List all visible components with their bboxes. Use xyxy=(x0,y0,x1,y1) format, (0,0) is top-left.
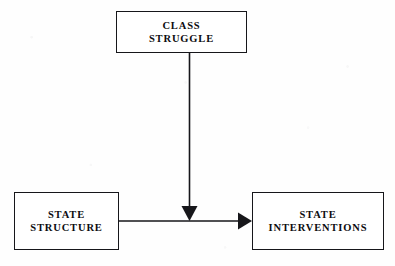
arrowhead-right-icon xyxy=(238,213,252,230)
node-class-struggle-label: CLASS STRUGGLE xyxy=(149,19,214,45)
diagram-canvas: CLASS STRUGGLE STATE STRUCTURE STATE INT… xyxy=(0,0,395,266)
node-state-structure-label: STATE STRUCTURE xyxy=(30,208,102,234)
node-state-interventions[interactable]: STATE INTERVENTIONS xyxy=(252,192,384,250)
node-class-struggle[interactable]: CLASS STRUGGLE xyxy=(116,11,247,53)
arrowhead-down-icon xyxy=(182,206,198,221)
node-state-interventions-label: STATE INTERVENTIONS xyxy=(269,208,368,234)
edge-class-struggle-to-link xyxy=(182,53,198,221)
edge-state-structure-to-state-interventions xyxy=(119,213,252,230)
node-state-structure[interactable]: STATE STRUCTURE xyxy=(14,192,119,250)
cropped-header-text xyxy=(0,0,395,6)
